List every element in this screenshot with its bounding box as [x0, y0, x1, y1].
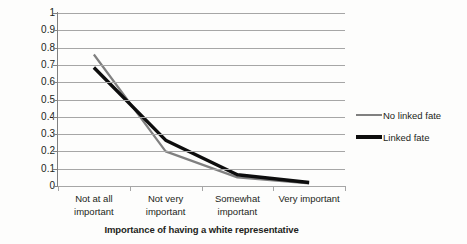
legend-label: Linked fate — [382, 132, 429, 143]
x-axis-tick-mark — [345, 186, 346, 191]
x-axis-tick-mark — [58, 186, 59, 191]
y-axis-tick-mark — [53, 100, 58, 101]
x-axis-tick-labels: Not at allimportantNot veryimportantSome… — [58, 193, 345, 225]
x-axis-tick-label-line: important — [55, 206, 133, 219]
chart-legend: No linked fateLinked fate — [356, 104, 464, 148]
x-axis-tick-label-line: important — [127, 206, 205, 219]
x-axis-tick-label-line: important — [198, 206, 276, 219]
y-axis-tick-mark — [53, 48, 58, 49]
x-axis-tick-label-line: Not at all — [55, 193, 133, 206]
y-axis-tick-mark — [53, 65, 58, 66]
gridline — [58, 169, 345, 170]
y-axis-tick-mark — [53, 134, 58, 135]
x-axis-tick-mark — [273, 186, 274, 191]
gridline — [58, 100, 345, 101]
gridline — [58, 82, 345, 83]
gridline — [58, 151, 345, 152]
gridline — [58, 65, 345, 66]
y-axis-tick-mark — [53, 82, 58, 83]
legend-line-icon — [356, 114, 382, 116]
legend-item[interactable]: Linked fate — [356, 126, 464, 148]
x-axis-tick-label: Not veryimportant — [127, 193, 205, 218]
y-axis-tick-mark — [53, 169, 58, 170]
y-axis-tick-mark — [53, 30, 58, 31]
gridline — [58, 13, 345, 14]
y-axis-tick-mark — [53, 117, 58, 118]
legend-line-icon — [356, 135, 382, 138]
chart-figure: Predicted probability 00.10.20.30.40.50.… — [0, 0, 467, 244]
x-axis-tick-mark — [202, 186, 203, 191]
y-axis-tick-mark — [53, 13, 58, 14]
x-axis-tick-label: Somewhatimportant — [198, 193, 276, 218]
x-axis-tick-label: Not at allimportant — [55, 193, 133, 218]
x-axis-tick-label: Very important — [270, 193, 348, 206]
gridline — [58, 48, 345, 49]
gridline — [58, 134, 345, 135]
x-axis-tick-mark — [130, 186, 131, 191]
legend-item[interactable]: No linked fate — [356, 104, 464, 126]
x-axis-title: Importance of having a white representat… — [58, 224, 345, 235]
gridline — [58, 117, 345, 118]
gridline — [58, 30, 345, 31]
x-axis-tick-label-line: Not very — [127, 193, 205, 206]
x-axis-tick-label-line: Very important — [270, 193, 348, 206]
y-axis-tick-labels: 00.10.20.30.40.50.60.70.80.91 — [30, 0, 57, 244]
x-axis-tick-label-line: Somewhat — [198, 193, 276, 206]
series-line — [94, 55, 309, 184]
plot-area — [58, 13, 345, 186]
legend-label: No linked fate — [382, 110, 441, 121]
y-axis-tick-mark — [53, 151, 58, 152]
